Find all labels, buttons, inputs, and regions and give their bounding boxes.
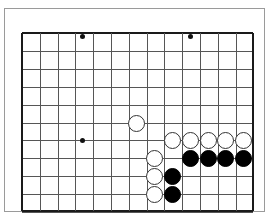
star-point (80, 34, 85, 39)
black-stone[interactable] (235, 150, 252, 167)
black-stone[interactable] (200, 150, 217, 167)
white-stone[interactable] (182, 132, 199, 149)
black-stone[interactable] (182, 150, 199, 167)
board-grid-line-vertical (58, 33, 59, 211)
white-stone[interactable] (217, 132, 234, 149)
white-stone[interactable] (146, 186, 163, 203)
go-diagram-page (0, 0, 280, 218)
board-grid-line-vertical (93, 33, 94, 211)
star-point (80, 138, 85, 143)
black-stone[interactable] (164, 186, 181, 203)
board-grid-line-vertical (147, 33, 148, 211)
board-grid-line-vertical (236, 33, 237, 211)
go-board[interactable] (0, 0, 280, 218)
black-stone[interactable] (217, 150, 234, 167)
board-grid-line-vertical (200, 33, 201, 211)
star-point (188, 34, 193, 39)
white-stone[interactable] (128, 115, 145, 132)
board-edge-line-vertical (21, 33, 23, 211)
board-grid-line-vertical (182, 33, 183, 211)
board-grid-line-vertical (75, 33, 76, 211)
white-stone[interactable] (200, 132, 217, 149)
board-grid-line-vertical (164, 33, 165, 211)
board-edge-line-vertical (252, 33, 254, 211)
board-grid-line-vertical (40, 33, 41, 211)
white-stone[interactable] (235, 132, 252, 149)
white-stone[interactable] (164, 132, 181, 149)
black-stone[interactable] (164, 168, 181, 185)
white-stone[interactable] (146, 168, 163, 185)
board-grid-line-vertical (111, 33, 112, 211)
board-grid-line-vertical (218, 33, 219, 211)
white-stone[interactable] (146, 150, 163, 167)
